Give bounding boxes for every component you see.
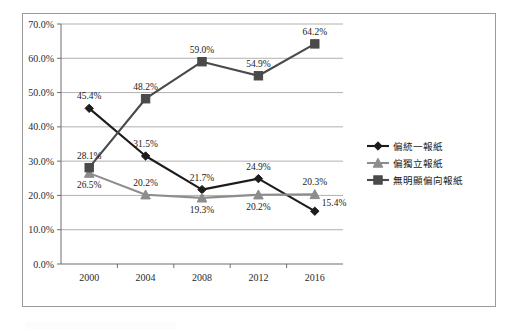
data-point-label: 20.3% — [303, 177, 328, 187]
x-tick-label: 2004 — [136, 272, 156, 283]
y-axis — [57, 24, 61, 264]
y-tick-label: 20.0% — [28, 190, 54, 201]
data-point-label: 54.9% — [246, 59, 271, 69]
data-point-marker — [254, 174, 262, 182]
data-series-layer — [84, 40, 319, 216]
y-tick-label: 10.0% — [28, 224, 54, 235]
data-point-label: 20.2% — [133, 178, 158, 188]
legend-item-1[interactable]: 偏統一報紙 — [367, 141, 443, 152]
data-point-marker — [85, 163, 93, 171]
x-tick-label: 2000 — [79, 272, 99, 283]
legend-label: 偏獨立報紙 — [393, 158, 443, 169]
y-tick-label: 60.0% — [28, 53, 54, 64]
data-point-label: 19.3% — [190, 205, 215, 215]
chart-legend: 偏統一報紙偏獨立報紙無明顯偏向報紙 — [367, 141, 463, 186]
chart-figure-frame: 0.0%10.0%20.0%30.0%40.0%50.0%60.0%70.0% … — [22, 13, 496, 307]
data-point-label: 15.4% — [322, 198, 347, 208]
legend-label: 無明顯偏向報紙 — [393, 175, 463, 186]
y-axis-tick-labels: 0.0%10.0%20.0%30.0%40.0%50.0%60.0%70.0% — [28, 19, 54, 270]
data-point-marker — [141, 95, 149, 103]
data-point-marker — [254, 72, 262, 80]
data-point-label: 24.9% — [246, 162, 271, 172]
data-point-label: 59.0% — [190, 45, 215, 55]
data-point-label: 48.2% — [133, 82, 158, 92]
data-point-labels: 45.4%31.5%21.7%24.9%15.4%26.5%20.2%19.3%… — [77, 27, 346, 215]
x-axis — [61, 264, 343, 268]
x-tick-label: 2016 — [305, 272, 325, 283]
y-tick-label: 70.0% — [28, 19, 54, 30]
data-point-marker — [311, 207, 319, 215]
data-point-marker — [311, 40, 319, 48]
data-point-label: 45.4% — [77, 91, 102, 101]
series-3 — [85, 40, 319, 172]
data-point-label: 31.5% — [133, 139, 158, 149]
data-point-label: 26.5% — [77, 180, 102, 190]
data-point-label: 64.2% — [303, 27, 328, 37]
y-tick-label: 0.0% — [33, 259, 54, 270]
line-chart: 0.0%10.0%20.0%30.0%40.0%50.0%60.0%70.0% … — [23, 14, 495, 306]
legend-item-2[interactable]: 偏獨立報紙 — [367, 158, 443, 169]
page-footer-artifact — [26, 322, 176, 329]
legend-label: 偏統一報紙 — [393, 141, 443, 152]
x-tick-label: 2008 — [192, 272, 212, 283]
data-point-label: 21.7% — [190, 173, 215, 183]
legend-marker-diamond — [374, 142, 382, 150]
y-tick-label: 30.0% — [28, 156, 54, 167]
data-point-label: 20.2% — [246, 202, 271, 212]
y-tick-label: 50.0% — [28, 87, 54, 98]
legend-item-3[interactable]: 無明顯偏向報紙 — [367, 175, 463, 186]
data-point-marker — [198, 58, 206, 66]
legend-marker-square — [374, 176, 382, 184]
data-point-label: 28.1% — [77, 151, 102, 161]
x-axis-tick-labels: 20002004200820122016 — [79, 272, 325, 283]
x-tick-label: 2012 — [248, 272, 268, 283]
y-tick-label: 40.0% — [28, 121, 54, 132]
